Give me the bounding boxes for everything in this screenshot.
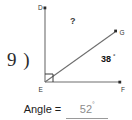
answer-value: 52	[80, 103, 92, 115]
vertex-label-e: E	[39, 86, 44, 93]
worksheet-problem: 9 ) D E F G ? 38 ° Angle = 52°	[0, 0, 132, 120]
vertex-label-g: G	[120, 29, 125, 36]
answer-degree-symbol: °	[92, 101, 95, 108]
answer-row: Angle = 52°	[0, 99, 132, 118]
answer-blank-field[interactable]: 52°	[66, 99, 108, 119]
unknown-angle-label: ?	[70, 16, 76, 26]
angle-diagram: D E F G ? 38 °	[0, 0, 132, 96]
point-marker-d	[44, 7, 47, 10]
point-marker-f	[118, 81, 121, 84]
known-angle-value: 38	[101, 54, 111, 64]
answer-label: Angle =	[24, 103, 65, 115]
point-marker-g	[114, 30, 117, 33]
vertex-label-d: D	[38, 4, 43, 11]
known-angle-degree-symbol: °	[113, 53, 116, 59]
vertex-label-f: F	[121, 86, 125, 93]
